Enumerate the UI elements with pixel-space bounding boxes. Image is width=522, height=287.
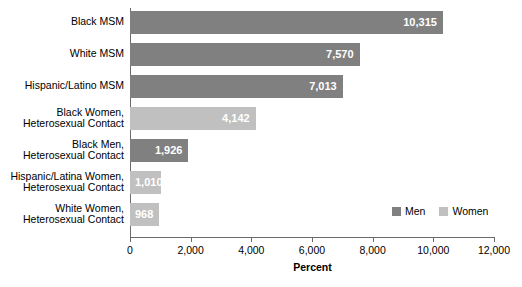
bar-row: 7,013 [130,75,494,98]
x-axis-title: Percent [130,261,495,273]
x-tick [494,237,495,242]
bar-value-label: 1,010 [135,171,163,194]
category-label-line: Hispanic/Latino MSM [2,80,124,92]
bar: 1,010 [130,171,161,194]
x-tick [433,237,434,242]
legend-label: Men [405,205,425,217]
bar-row: 1,926 [130,139,494,162]
category-label-line: Heterosexual Contact [2,182,124,194]
bar-row: 7,570 [130,43,494,66]
category-label: Hispanic/Latino MSM [2,80,124,92]
category-label-line: White MSM [2,48,124,60]
x-tick-label: 12,000 [478,244,510,256]
bar-value-label: 968 [135,203,153,226]
bar: 968 [130,203,159,226]
bar-value-label: 7,013 [309,75,337,98]
chart-legend: MenWomen [392,205,488,217]
category-label-line: Heterosexual Contact [2,150,124,162]
category-label: Black MSM [2,16,124,28]
legend-item: Men [392,205,425,217]
category-label-line: Black MSM [2,16,124,28]
category-label: Hispanic/Latina Women,Heterosexual Conta… [2,171,124,194]
bar: 10,315 [130,11,443,34]
plot-area: 10,3157,5707,0134,1421,9261,010968 [130,0,494,237]
bar: 7,570 [130,43,360,66]
bar-chart: Black MSMWhite MSMHispanic/Latino MSMBla… [0,0,522,287]
legend-swatch-icon [439,207,448,216]
x-tick [130,237,131,242]
category-label: White MSM [2,48,124,60]
x-tick [373,237,374,242]
x-tick-label: 2,000 [178,244,204,256]
x-tick [251,237,252,242]
bar: 1,926 [130,139,188,162]
category-label-line: Heterosexual Contact [2,118,124,130]
category-label: White Women,Heterosexual Contact [2,203,124,226]
category-label-line: Heterosexual Contact [2,214,124,226]
bar-value-label: 10,315 [403,11,437,34]
category-label: Black Women,Heterosexual Contact [2,107,124,130]
x-tick [312,237,313,242]
x-tick-label: 0 [127,244,133,256]
x-tick [191,237,192,242]
bar-row: 10,315 [130,11,494,34]
bar-row: 1,010 [130,171,494,194]
legend-label: Women [452,205,488,217]
bar: 7,013 [130,75,343,98]
legend-swatch-icon [392,207,401,216]
x-tick-label: 6,000 [299,244,325,256]
x-tick-label: 8,000 [360,244,386,256]
category-labels: Black MSMWhite MSMHispanic/Latino MSMBla… [0,0,124,237]
bar-value-label: 7,570 [326,43,354,66]
bar-row: 4,142 [130,107,494,130]
bar-value-label: 1,926 [155,139,183,162]
x-tick-label: 10,000 [417,244,449,256]
x-tick-label: 4,000 [238,244,264,256]
bar: 4,142 [130,107,256,130]
bar-value-label: 4,142 [222,107,250,130]
legend-item: Women [439,205,488,217]
category-label: Black Men,Heterosexual Contact [2,139,124,162]
